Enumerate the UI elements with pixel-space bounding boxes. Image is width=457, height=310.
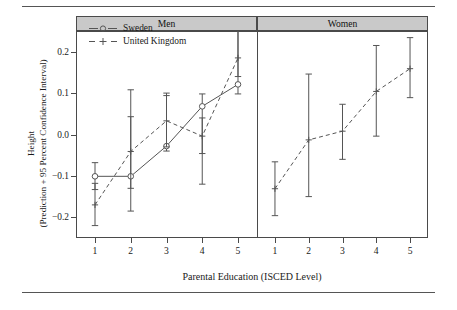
x-tick [95,238,96,243]
data-point-marker [92,202,98,208]
x-tick-label: 5 [236,246,241,256]
x-tick-label: 1 [93,246,98,256]
x-tick [238,238,239,243]
y-tick [71,93,76,94]
x-tick-label: 3 [164,246,169,256]
y-tick-label: −0.1 [52,171,69,180]
x-tick [410,238,411,243]
data-point-marker [199,104,205,110]
plot-area: Men Women 0.20.10.0−0.1−0.2 1234512345 S… [76,16,428,253]
data-point-marker [92,174,98,180]
x-tick [309,238,310,243]
y-tick [71,176,76,177]
x-tick [343,238,344,243]
y-tick [71,52,76,53]
x-tick-label: 1 [273,246,278,256]
top-rule [22,6,435,7]
x-tick-label: 4 [200,246,205,256]
x-tick-label: 3 [340,246,345,256]
data-point-marker [272,186,278,192]
chart-svg [76,31,428,238]
y-tick-label: 0.0 [57,130,69,139]
x-tick [275,238,276,243]
legend-item-united-kingdom: United Kingdom [88,35,186,48]
y-tick-label: −0.2 [52,213,69,222]
y-tick [71,135,76,136]
data-point-marker [128,148,134,154]
y-tick-label: 0.1 [57,89,69,98]
series-canvas [76,31,428,238]
data-point-marker [407,66,413,72]
panel-strip-women: Women [257,16,428,31]
y-tick [71,217,76,218]
x-tick-label: 4 [374,246,379,256]
x-axis-label: Parental Education (ISCED Level) [76,271,428,282]
legend-key-sweden [88,22,118,35]
x-tick-label: 2 [128,246,133,256]
x-tick-label: 2 [306,246,311,256]
x-tick [202,238,203,243]
legend: Sweden United Kingdom [88,22,186,48]
y-axis-label: Height (Prediction + 95 Percent Confiden… [26,29,49,259]
y-axis-label-line1: Height [26,29,38,259]
legend-label-sweden: Sweden [123,22,153,35]
legend-label-united-kingdom: United Kingdom [123,35,186,48]
y-axis-label-line2: (Prediction + 95 Percent Confidence Inte… [37,29,49,259]
data-point-marker [199,133,205,139]
data-point-marker [306,137,312,143]
legend-key-united-kingdom [88,35,118,48]
figure-root: Height (Prediction + 95 Percent Confiden… [0,0,457,310]
bottom-rule [22,292,435,293]
y-tick-label: 0.2 [57,47,69,56]
x-tick [167,238,168,243]
data-point-marker [235,82,241,88]
data-point-marker [235,55,241,61]
data-point-marker [339,128,345,134]
legend-item-sweden: Sweden [88,22,186,35]
x-tick [131,238,132,243]
x-tick-label: 5 [408,246,413,256]
x-tick [376,238,377,243]
